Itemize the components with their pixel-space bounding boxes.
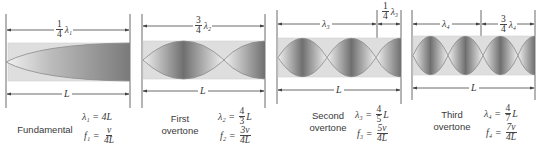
wavelength-equation-3: λ₃ = 45 L (355, 105, 389, 124)
dimension-lambda-3: λ₃ (320, 19, 332, 29)
wavelength-equation-2: λ₂ = 43 L (218, 107, 252, 126)
cropped-caption-text (0, 143, 541, 150)
dimension-quarter-lambda-1: 14 λ₁ (54, 20, 73, 39)
frequency-equation-3: f₃ = 5v4L (357, 124, 389, 143)
standing-waves-figure: 14 λ₁ L 34 λ₂ L λ₃ 14 λ₃ L λ₄ 34 λ₄ L Fu… (0, 0, 541, 150)
mode-label-fundamental: Fundamental (10, 124, 80, 136)
mode-label-first-overtone: First overtone (150, 113, 210, 137)
mode-label-third-overtone: Third overtone (422, 109, 482, 133)
dimension-three-quarter-lambda-4: 34 λ₄ (498, 15, 517, 34)
mode-label-second-overtone: Second overtone (298, 110, 358, 134)
dimension-three-quarter-lambda-2: 34 λ₂ (193, 16, 212, 35)
wavelength-equation-1: λ₁ = 4L (82, 111, 112, 122)
dimension-lambda-4: λ₄ (440, 19, 452, 29)
dimension-length-L: L (62, 89, 72, 99)
dimension-quarter-lambda-3: 14 λ₃ (380, 2, 399, 21)
dimension-length-L: L (334, 85, 344, 95)
wavelength-equation-4: λ₄ = 47 L (484, 104, 518, 123)
frequency-equation-4: f₄ = 7v4L (486, 123, 518, 142)
dimension-length-L: L (469, 83, 479, 93)
dimension-length-L: L (198, 86, 208, 96)
